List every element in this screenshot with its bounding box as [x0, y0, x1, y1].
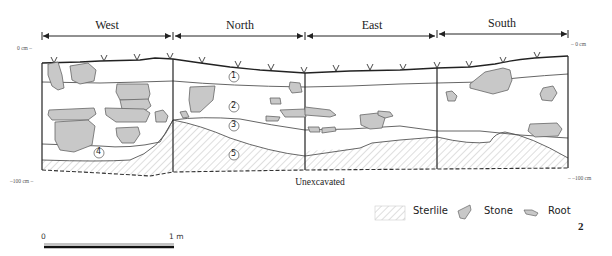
unexcavated-label: Unexcavated: [295, 177, 345, 187]
section-title-east: East: [362, 18, 383, 33]
legend-label-root: Root: [548, 205, 571, 216]
legend-swatches: [375, 205, 538, 220]
depth-label-bottom-right: – –100 cm: [568, 175, 591, 181]
section-title-north: North: [226, 18, 254, 33]
layer-label-1: 1: [231, 71, 236, 80]
section-title-south: South: [488, 16, 516, 31]
layer-label-4: 4: [96, 147, 101, 156]
scale-label-start: 0: [41, 232, 46, 241]
root-icon: [524, 210, 538, 216]
depth-label-bottom-left: –100 cm –: [10, 178, 33, 184]
depth-label-top-right: – 0 cm: [571, 41, 586, 47]
section-title-west: West: [95, 18, 119, 33]
layer-label-5: 5: [231, 149, 236, 158]
layer-label-2: 2: [231, 101, 236, 110]
layer-label-3: 3: [231, 120, 236, 129]
figure-number: 2: [578, 220, 584, 232]
legend-label-stone: Stone: [484, 205, 513, 216]
scale-label-end: 1 m: [169, 232, 183, 241]
grass-markers: [51, 52, 540, 73]
section-arrows: [42, 30, 568, 40]
depth-label-top-left: 0 cm –: [17, 45, 32, 51]
profile-drawing: [0, 0, 612, 256]
scale-bar-graphic: [44, 244, 174, 247]
sterile-swatch: [375, 206, 405, 220]
legend-label-sterile: Sterlile: [413, 205, 448, 216]
stone-icon: [458, 205, 471, 219]
